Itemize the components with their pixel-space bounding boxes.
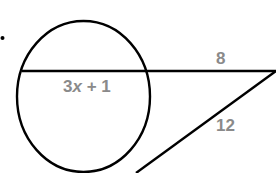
external-secant-label: 8 [216, 49, 225, 68]
geometry-diagram: 3x + 1 8 12 [0, 0, 276, 173]
chord-label: 3x + 1 [63, 77, 111, 96]
tangent-label: 12 [216, 116, 235, 135]
circle [17, 21, 150, 172]
bullet-marker [1, 36, 5, 40]
tangent-line [136, 71, 276, 173]
